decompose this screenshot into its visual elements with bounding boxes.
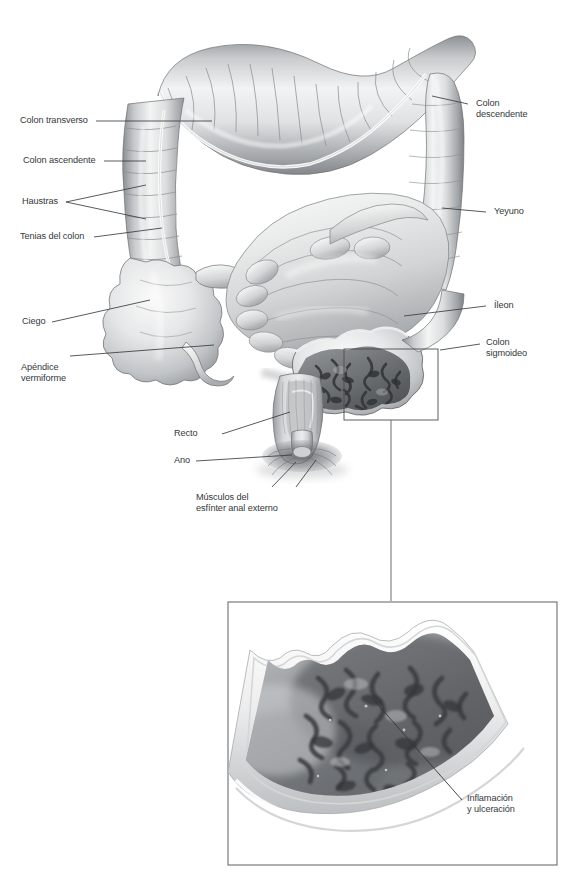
label-musculos-esfinter-anal-externo: Músculos del esfínter anal externo (196, 492, 278, 515)
label-ciego: Ciego (22, 316, 46, 327)
label-colon-ascendente: Colon ascendente (23, 155, 95, 166)
colon-anatomy-figure (0, 0, 575, 883)
label-colon-sigmoideo: Colon sigmoideo (486, 337, 527, 360)
label-inflamacion-y-ulceracion: Inflamación y ulceración (467, 793, 515, 816)
label-apendice-vermiforme: Apéndice vermiforme (21, 362, 66, 385)
label-ileon: Íleon (494, 300, 513, 311)
label-colon-transverso: Colon transverso (20, 115, 88, 126)
label-yeyuno: Yeyuno (494, 206, 524, 217)
label-tenias-del-colon: Tenias del colon (20, 231, 84, 242)
label-recto: Recto (174, 428, 198, 439)
label-ano: Ano (174, 455, 190, 466)
label-colon-descendente: Colon descendente (476, 98, 528, 121)
label-haustras: Haustras (22, 196, 58, 207)
inset-panel (210, 602, 557, 865)
